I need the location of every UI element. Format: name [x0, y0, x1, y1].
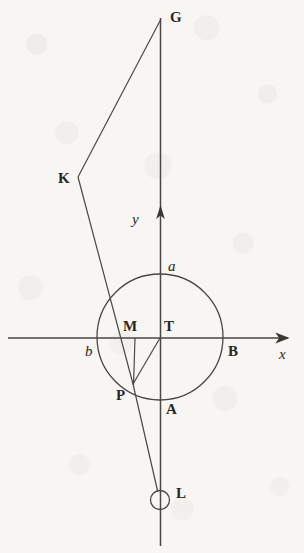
label-b: b [85, 344, 93, 359]
segment-T-P [133, 338, 160, 384]
label-a: a [168, 259, 176, 274]
label-A: A [166, 402, 177, 417]
label-M: M [123, 319, 137, 334]
segment-M-P [134, 338, 136, 385]
label-K: K [58, 171, 70, 186]
diagram-canvas [0, 0, 304, 553]
label-G: G [170, 10, 182, 25]
axis-label-y: y [132, 212, 139, 227]
segment-G-K [78, 19, 161, 177]
label-B: B [228, 344, 238, 359]
geometry-figure: G K a M T b B P A L x y [0, 0, 304, 553]
label-P: P [116, 388, 125, 403]
label-L: L [176, 486, 186, 501]
label-T: T [164, 319, 174, 334]
axis-label-x: x [279, 347, 286, 362]
